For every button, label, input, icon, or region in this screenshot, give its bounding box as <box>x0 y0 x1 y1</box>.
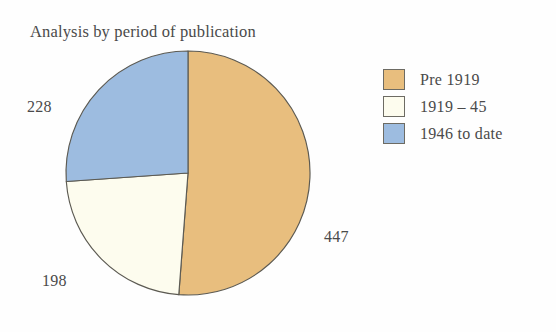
legend-label-1919-45: 1919 – 45 <box>420 98 487 116</box>
slice-value-label-pre-1919: 447 <box>324 228 349 246</box>
legend-item-1919-45: 1919 – 45 <box>383 93 553 120</box>
pie-slice <box>66 173 188 295</box>
pie-plot-area <box>60 45 316 301</box>
pie-slice <box>66 51 188 182</box>
pie-chart-figure: Analysis by period of publication 447 19… <box>0 0 556 332</box>
slice-value-label-1919-45: 198 <box>42 272 67 290</box>
chart-legend: Pre 1919 1919 – 45 1946 to date <box>383 66 553 147</box>
chart-title: Analysis by period of publication <box>30 22 256 42</box>
pie-svg <box>60 45 316 301</box>
legend-item-pre-1919: Pre 1919 <box>383 66 553 93</box>
pie-slice-group <box>66 51 310 295</box>
legend-label-pre-1919: Pre 1919 <box>420 71 480 89</box>
legend-swatch-icon-pre-1919 <box>383 69 405 90</box>
slice-value-label-1946-to-date: 228 <box>27 98 52 116</box>
pie-slice <box>179 51 310 295</box>
legend-item-1946-to-date: 1946 to date <box>383 120 553 147</box>
legend-swatch-icon-1919-45 <box>383 96 405 117</box>
legend-label-1946-to-date: 1946 to date <box>420 125 503 143</box>
legend-swatch-icon-1946-to-date <box>383 123 405 144</box>
